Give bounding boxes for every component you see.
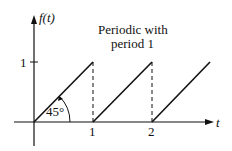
x-axis-label: t <box>216 116 220 129</box>
x-tick-label-1: 1 <box>89 125 96 138</box>
annotation-line-1: Periodic with <box>98 23 168 36</box>
y-tick-label: 1 <box>20 56 27 69</box>
x-axis-arrow-icon <box>205 119 214 125</box>
angle-label: 45° <box>46 105 64 118</box>
y-axis-arrow-icon <box>31 15 37 24</box>
y-axis-label: f(t) <box>39 11 55 24</box>
x-tick-label-2: 2 <box>148 125 155 138</box>
segment-3 <box>152 62 210 122</box>
annotation-line-2: period 1 <box>111 37 154 50</box>
segment-2 <box>93 62 152 122</box>
